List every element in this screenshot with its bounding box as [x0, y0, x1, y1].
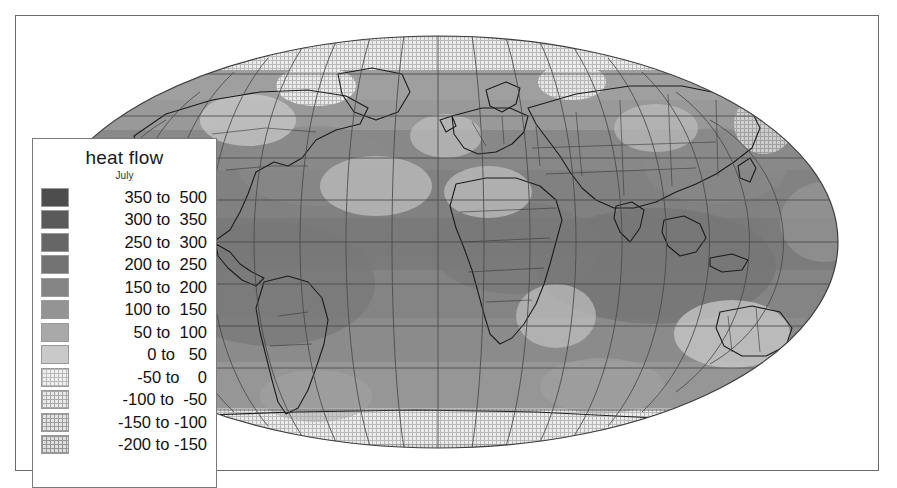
legend-entry[interactable]: 350 to 500 [33, 186, 216, 209]
legend-swatch [41, 300, 69, 319]
legend-swatch [41, 323, 69, 342]
legend-entry-label: -50 to 0 [69, 368, 216, 387]
legend-entry[interactable]: 100 to 150 [33, 299, 216, 322]
legend-swatch [41, 255, 69, 274]
legend-entry-label: 300 to 350 [69, 210, 216, 229]
legend-entry[interactable]: -150 to -100 [33, 411, 216, 434]
legend-swatch [41, 210, 69, 229]
legend-entry-label: 250 to 300 [69, 233, 216, 252]
legend-swatch [41, 390, 69, 409]
legend-swatch [41, 188, 69, 207]
legend-subtitle: July [33, 170, 216, 181]
legend-entry[interactable]: 150 to 200 [33, 276, 216, 299]
map-frame: heat flow July 350 to 500300 to 350250 t… [15, 15, 879, 471]
legend-entry[interactable]: 50 to 100 [33, 321, 216, 344]
legend-swatch [41, 368, 69, 387]
legend-entry-label: -200 to -150 [69, 435, 216, 454]
legend-swatch [41, 413, 69, 432]
legend-entry-label: -100 to -50 [69, 390, 216, 409]
legend-entry-label: -150 to -100 [69, 413, 216, 432]
legend-entry-label: 50 to 100 [69, 323, 216, 342]
legend-swatch [41, 345, 69, 364]
legend-panel: heat flow July 350 to 500300 to 350250 t… [32, 138, 217, 488]
legend-entry[interactable]: 250 to 300 [33, 231, 216, 254]
legend-entry-label: 200 to 250 [69, 255, 216, 274]
legend-entry[interactable]: 200 to 250 [33, 254, 216, 277]
legend-entry[interactable]: -50 to 0 [33, 366, 216, 389]
legend-entry[interactable]: -200 to -150 [33, 434, 216, 457]
legend-swatch [41, 233, 69, 252]
legend-entry-label: 0 to 50 [69, 345, 216, 364]
legend-entry[interactable]: -100 to -50 [33, 389, 216, 412]
legend-swatch [41, 278, 69, 297]
legend-entry[interactable]: 0 to 50 [33, 344, 216, 367]
legend-entry-label: 150 to 200 [69, 278, 216, 297]
legend-entry-list: 350 to 500300 to 350250 to 300200 to 250… [33, 186, 216, 456]
legend-entry[interactable]: 300 to 350 [33, 209, 216, 232]
legend-title: heat flow [33, 147, 216, 169]
legend-entry-label: 100 to 150 [69, 300, 216, 319]
legend-entry-label: 350 to 500 [69, 188, 216, 207]
legend-swatch [41, 435, 69, 454]
